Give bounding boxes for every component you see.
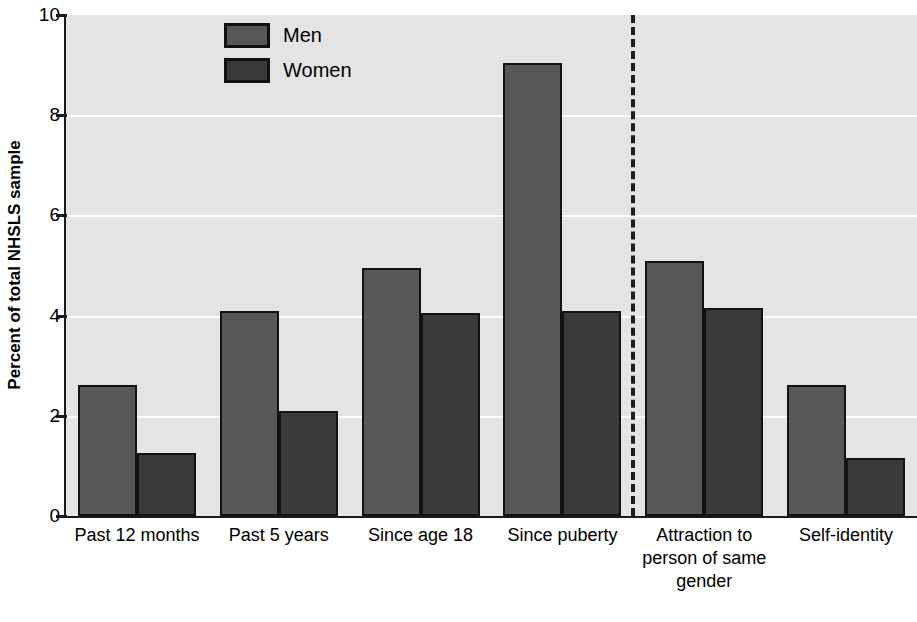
vertical-dashed-divider [631, 15, 635, 516]
legend-swatch-men [224, 23, 270, 48]
plot-area [66, 15, 917, 516]
x-axis-label-5: Self-identity [763, 524, 917, 547]
bar-women-group-4 [704, 308, 763, 516]
y-tick-label-6: 6 [26, 204, 60, 226]
y-tick-label-2: 2 [26, 405, 60, 427]
y-tick-mark-0 [56, 515, 67, 518]
bar-women-group-3 [562, 311, 621, 516]
legend-item-women: Women [224, 57, 352, 83]
y-tick-label-4: 4 [26, 305, 60, 327]
y-tick-mark-10 [56, 14, 67, 17]
gridline-6 [66, 215, 917, 217]
gridline-4 [66, 316, 917, 318]
legend-swatch-women [224, 58, 270, 83]
y-tick-mark-8 [56, 114, 67, 117]
x-axis-category-labels: Past 12 monthsPast 5 yearsSince age 18Si… [66, 524, 917, 620]
bar-women-group-2 [421, 313, 480, 516]
bar-women-group-0 [137, 453, 196, 516]
y-tick-mark-2 [56, 415, 67, 418]
bar-chart-figure: Percent of total NHSLS sample 0246810 Me… [0, 0, 917, 622]
y-tick-label-10: 10 [26, 4, 60, 26]
legend-label-women: Women [283, 59, 352, 82]
bar-men-group-0 [78, 385, 137, 516]
y-tick-mark-6 [56, 214, 67, 217]
bar-men-group-1 [220, 311, 279, 516]
x-axis-label-4-line-2: gender [621, 570, 787, 593]
y-tick-label-8: 8 [26, 104, 60, 126]
legend: MenWomen [224, 22, 352, 92]
legend-label-men: Men [283, 24, 322, 47]
y-axis-tick-labels: 0246810 [26, 0, 60, 530]
bar-men-group-3 [503, 63, 562, 516]
bar-women-group-1 [279, 411, 338, 516]
x-axis-label-5-line-0: Self-identity [763, 524, 917, 547]
bar-men-group-5 [787, 385, 846, 516]
bar-men-group-4 [645, 261, 704, 517]
x-axis-label-4-line-1: person of same [621, 547, 787, 570]
bar-women-group-5 [846, 458, 905, 516]
bar-men-group-2 [362, 268, 421, 516]
legend-item-men: Men [224, 22, 352, 48]
y-axis-title-text: Percent of total NHSLS sample [5, 140, 25, 389]
gridline-8 [66, 115, 917, 117]
y-tick-mark-4 [56, 315, 67, 318]
